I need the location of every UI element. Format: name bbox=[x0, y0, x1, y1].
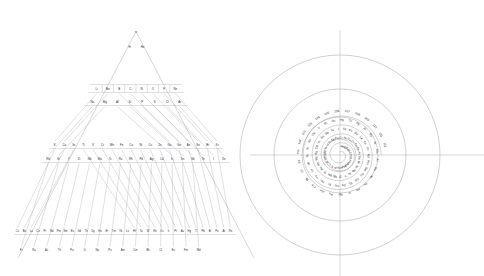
period-connector bbox=[217, 150, 230, 228]
element-Se: Se bbox=[196, 143, 200, 147]
element-Gd: Gd bbox=[78, 229, 82, 233]
element-Dy: Dy bbox=[91, 229, 95, 233]
element-Sc: Sc bbox=[72, 143, 76, 147]
element-Rh: Rh bbox=[129, 157, 133, 161]
element-C: C bbox=[129, 87, 131, 91]
period-connector bbox=[110, 164, 121, 247]
spiral-element-U: U bbox=[348, 191, 351, 195]
spiral-element-Hg: Hg bbox=[340, 118, 344, 122]
element-Zr: Zr bbox=[78, 157, 81, 161]
spiral-element-Xe: Xe bbox=[342, 127, 347, 132]
spiral-element-Os: Os bbox=[311, 131, 317, 137]
period-connector bbox=[112, 150, 155, 228]
element-Es: Es bbox=[172, 248, 176, 252]
pblock-connector bbox=[180, 107, 224, 156]
period-connector bbox=[17, 150, 54, 228]
period-connector bbox=[24, 150, 64, 228]
spiral-element-110: 110 bbox=[372, 123, 378, 130]
element-Na: Na bbox=[90, 100, 94, 104]
spiral-element-Rn: Rn bbox=[375, 149, 379, 154]
spiral-element-Cf: Cf bbox=[299, 169, 304, 174]
spiral-element-Re: Re bbox=[307, 138, 312, 144]
spiral-element-Ho: Ho bbox=[334, 183, 339, 187]
pblock-connector bbox=[164, 94, 208, 142]
element-H: H bbox=[128, 45, 130, 49]
element-Mo: Mo bbox=[98, 157, 102, 161]
period-connector bbox=[31, 150, 74, 228]
element-Tm: Tm bbox=[112, 229, 117, 233]
spiral-element-Fr: Fr bbox=[375, 158, 379, 161]
spiral-element-In: In bbox=[317, 139, 322, 144]
spiral-element-Sb: Sb bbox=[324, 130, 330, 136]
spiral-element-Pm: Pm bbox=[365, 160, 370, 166]
spiral-element-104: 104 bbox=[314, 115, 321, 121]
sblock-connector bbox=[64, 94, 108, 142]
spiral-element-Te: Te bbox=[330, 128, 335, 133]
sblock-connector bbox=[59, 107, 105, 156]
period-connector bbox=[208, 150, 224, 228]
element-Cr: Cr bbox=[101, 143, 104, 147]
element-Mg: Mg bbox=[103, 100, 107, 104]
element-Ru: Ru bbox=[119, 157, 123, 161]
period-connector bbox=[183, 164, 187, 247]
element-Ir: Ir bbox=[168, 229, 170, 233]
spiral-element-Pt: Pt bbox=[324, 121, 328, 126]
element-Ta: Ta bbox=[140, 229, 143, 233]
element-Ar: Ar bbox=[178, 100, 181, 104]
spiral-element-W: W bbox=[305, 147, 310, 151]
element-Li: Li bbox=[96, 87, 99, 91]
spiral-element-Nd: Nd bbox=[366, 154, 370, 158]
period-connector bbox=[150, 150, 182, 228]
element-Re: Re bbox=[153, 229, 157, 233]
element-Hg: Hg bbox=[188, 229, 192, 233]
element-Rb: Rb bbox=[46, 157, 50, 161]
spiral-element-Ce: Ce bbox=[362, 140, 367, 146]
spiral-element-Cs: Cs bbox=[348, 128, 353, 133]
period-connector bbox=[160, 150, 189, 228]
spiral-element-Lu: Lu bbox=[309, 168, 314, 173]
element-P: P bbox=[141, 100, 143, 104]
element-Mn: Mn bbox=[110, 143, 114, 147]
spiral-element-Y: Y bbox=[344, 174, 347, 178]
spiral-element-106: 106 bbox=[334, 109, 340, 113]
element-B: B bbox=[118, 87, 120, 91]
spiral-element-Ag: Ag bbox=[314, 151, 318, 155]
spiral-element-112: 112 bbox=[382, 142, 387, 148]
spiral-element-Md: Md bbox=[297, 139, 302, 145]
element-I: I bbox=[213, 157, 214, 161]
figure-canvas: nHHeLiBeBCNOFNeNaMgAlSiPSClArKCaScTiVCrM… bbox=[0, 0, 484, 276]
period-connector bbox=[131, 150, 168, 228]
spiral-element-Po: Po bbox=[368, 133, 374, 139]
spiral-element-111: 111 bbox=[378, 132, 384, 138]
element-Be: Be bbox=[106, 87, 110, 91]
spiral-element-Fm: Fm bbox=[296, 149, 300, 154]
spiral-element-Cm: Cm bbox=[310, 183, 317, 189]
period-connector bbox=[34, 164, 59, 247]
element-Fe: Fe bbox=[120, 143, 124, 147]
spiral-element-Er: Er bbox=[327, 182, 331, 187]
element-Po: Po bbox=[215, 229, 219, 233]
sblock-connector bbox=[55, 94, 97, 142]
spiral-element-Rh: Rh bbox=[316, 161, 321, 166]
element-Er: Er bbox=[105, 229, 108, 233]
spiral-element-Sm: Sm bbox=[363, 166, 369, 172]
pblock-connector bbox=[167, 107, 213, 156]
pblock-connector bbox=[119, 94, 169, 142]
period-connector bbox=[189, 150, 210, 228]
element-Ho: Ho bbox=[98, 229, 102, 233]
spiral-element-Ta: Ta bbox=[305, 154, 309, 158]
spiral-element-102: 102 bbox=[301, 129, 307, 136]
pblock-connector bbox=[142, 107, 193, 156]
element-Rn: Rn bbox=[229, 229, 233, 233]
element-Pa: Pa bbox=[70, 248, 74, 252]
element-La: La bbox=[30, 229, 33, 233]
element-K: K bbox=[54, 143, 56, 147]
element-Am: Am bbox=[121, 248, 126, 252]
element-At: At bbox=[222, 229, 225, 233]
period-connector bbox=[169, 150, 196, 228]
spiral-element-I: I bbox=[338, 127, 339, 131]
element-Ti: Ti bbox=[82, 143, 85, 147]
sblock-connector bbox=[48, 107, 92, 156]
element-Al: Al bbox=[116, 100, 119, 104]
spiral-element-Yb: Yb bbox=[314, 174, 320, 180]
